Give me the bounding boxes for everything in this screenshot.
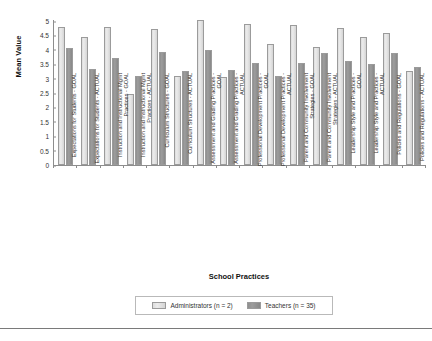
- y-axis-title: Mean Value: [14, 12, 23, 102]
- bar-chart-figure: Mean Value 54.543.532.521.510.50 Expecta…: [0, 0, 432, 341]
- legend-swatch-admin: [152, 302, 166, 309]
- x-axis-tick-labels: Expectations for Students - GOALExpectat…: [53, 169, 425, 267]
- x-axis-tick-label: Leadership Style and Practices - GOAL: [350, 73, 367, 169]
- x-axis-title: School Practices: [53, 272, 425, 281]
- legend-swatch-teach: [247, 302, 261, 309]
- legend-item: Administrators (n = 2): [152, 302, 232, 309]
- x-axis-tick-label: Expectations for Students - GOAL: [71, 73, 88, 169]
- x-axis-tick-label: Assessment and Grading Practices - GOAL: [210, 73, 227, 169]
- x-axis-tick-label: Expectations for Students - ACTUAL: [94, 73, 111, 169]
- legend-item: Teachers (n = 35): [247, 302, 316, 309]
- legend-label: Teachers (n = 35): [265, 302, 316, 309]
- bar-administrators: [58, 27, 65, 165]
- y-axis-tick-label: 4.5: [40, 32, 53, 39]
- x-axis-tick-label: Curriculum Structures - GOAL: [164, 73, 181, 169]
- y-axis-tick-label: 2.5: [40, 90, 53, 97]
- y-axis-tick-label: 1: [45, 133, 53, 140]
- x-axis-tick-label: Professional Development Practices - GOA…: [257, 73, 274, 169]
- x-axis-tick-label: Policies and Regulations - GOAL: [396, 73, 413, 169]
- y-axis-tick-label: 2: [45, 104, 53, 111]
- legend-label: Administrators (n = 2): [170, 302, 232, 309]
- y-axis-tick-label: 0.5: [40, 147, 53, 154]
- y-axis-tick-label: 3: [45, 75, 53, 82]
- x-axis-tick-label: Policies and Regulations - ACTUAL: [419, 73, 432, 169]
- y-axis-tick-label: 4: [45, 46, 53, 53]
- y-axis-tick-label: 1.5: [40, 118, 53, 125]
- y-axis-tick-label: 5: [45, 18, 53, 25]
- footer-divider: [0, 328, 432, 329]
- x-axis-tick-label: Professional Development Practices - ACT…: [280, 73, 297, 169]
- x-axis-tick-label: Instruction and Instructional Mgmt Pract…: [140, 73, 157, 169]
- x-axis-tick-mark: [53, 165, 54, 168]
- x-axis-tick-label: Leadership Style and Practices - ACTUAL: [373, 73, 390, 169]
- chart-legend: Administrators (n = 2)Teachers (n = 35): [135, 296, 333, 315]
- y-axis-tick-label: 3.5: [40, 61, 53, 68]
- x-axis-tick-label: Curriculum Structures - ACTUAL: [187, 73, 204, 169]
- x-axis-tick-label: Assessment and Grading Practices - ACTUA…: [233, 73, 250, 169]
- x-axis-tick-label: Parent and Community Involvement Strateg…: [303, 73, 320, 169]
- x-axis-tick-label: Instruction and Instructional Mgmt Pract…: [117, 73, 134, 169]
- x-axis-tick-label: Parent and Community Involvement Strateg…: [326, 73, 343, 169]
- y-axis-tick-label: 0: [45, 162, 53, 169]
